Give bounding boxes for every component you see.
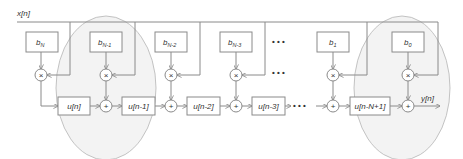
svg-text:×: × (104, 71, 109, 80)
coef-box-bN-2: bN-2 (155, 32, 187, 52)
svg-text:+: + (406, 102, 411, 111)
multiplier-icon: × (35, 69, 47, 81)
svg-text:+: + (169, 102, 174, 111)
svg-text:×: × (331, 71, 336, 80)
multiplier-icon: × (165, 69, 177, 81)
svg-text:u[n-3]: u[n-3] (258, 102, 279, 111)
delay-box-u-n-1: u[n-1] (122, 97, 155, 115)
input-label: x[n] (16, 9, 31, 18)
svg-text:+: + (331, 102, 336, 111)
delay-box-u-n-3: u[n-3] (252, 97, 285, 115)
ellipsis-coef-row: • • • (272, 37, 285, 46)
svg-text:×: × (169, 71, 174, 80)
svg-text:+: + (104, 102, 109, 111)
delay-box-u-n-2: u[n-2] (187, 97, 220, 115)
adder-icon: + (327, 100, 339, 112)
coef-box-b0: b0 (392, 32, 424, 52)
svg-text:×: × (234, 71, 239, 80)
delay-box-u-n-N+1: u[n-N+1] (350, 97, 390, 115)
coef-box-b1: b1 (317, 32, 349, 52)
svg-text:u[n]: u[n] (67, 102, 81, 111)
svg-text:u[n-1]: u[n-1] (128, 102, 149, 111)
multiplier-icon: × (402, 69, 414, 81)
ellipsis-mult-row: • • • (272, 68, 285, 77)
svg-text:×: × (406, 71, 411, 80)
svg-text:×: × (39, 71, 44, 80)
transposed-fir-diagram: x[n] y[n] bN bN-1 bN-2 bN-3 b1 b0 × × × … (0, 0, 463, 159)
coef-box-bN: bN (26, 32, 58, 52)
svg-text:+: + (234, 102, 239, 111)
multiplier-icon: × (100, 69, 112, 81)
svg-text:u[n-N+1]: u[n-N+1] (355, 102, 387, 111)
ellipsis-delay-row: • • • (293, 101, 306, 110)
adder-icon: + (230, 100, 242, 112)
coef-box-bN-1: bN-1 (90, 32, 122, 52)
multiplier-icon: × (327, 69, 339, 81)
coef-box-bN-3: bN-3 (220, 32, 252, 52)
adder-icon: + (100, 100, 112, 112)
multiplier-icon: × (230, 69, 242, 81)
adder-icon: + (402, 100, 414, 112)
adder-icon: + (165, 100, 177, 112)
svg-text:u[n-2]: u[n-2] (193, 102, 214, 111)
output-label: y[n] (420, 94, 435, 103)
delay-box-u-n: u[n] (58, 97, 90, 115)
